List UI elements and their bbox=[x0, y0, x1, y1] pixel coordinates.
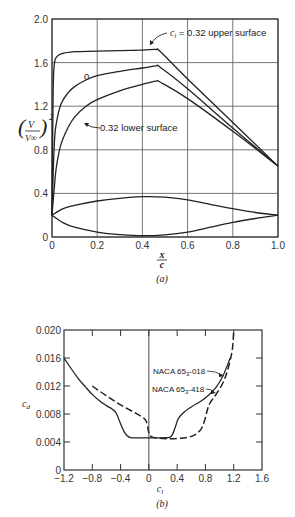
annotation-zero: 0 bbox=[84, 71, 89, 82]
series-line-4 bbox=[52, 215, 278, 236]
y-tick-label: 0.004 bbox=[36, 437, 61, 448]
annotation-018-text: NACA 653-018 bbox=[153, 367, 206, 377]
x-tick-label: 1.2 bbox=[227, 473, 241, 484]
x-tick-label: 0 bbox=[49, 240, 55, 251]
y-tick-label: 2.0 bbox=[34, 14, 48, 25]
chart-b-frame bbox=[64, 330, 262, 470]
x-label-denominator: c bbox=[160, 259, 165, 270]
chart-b-y-label: cd bbox=[22, 398, 30, 411]
chart-b-x-ticks: −1.2−0.8−0.400.40.81.21.6 bbox=[54, 330, 269, 484]
x-tick-label: 0 bbox=[146, 473, 152, 484]
chart-b-x-label: cl bbox=[157, 483, 163, 496]
y-tick-label: 0.016 bbox=[36, 353, 61, 364]
annotation-upper-surface: cl = 0.32 upper surface bbox=[150, 27, 266, 45]
x-tick-label: 1.6 bbox=[255, 473, 269, 484]
chart-a: 00.40.81.21.62.0 00.20.40.60.81.0 ( V V∞… bbox=[18, 14, 285, 285]
x-tick-label: 0.6 bbox=[181, 240, 195, 251]
annotation-upper-text: cl = 0.32 upper surface bbox=[170, 27, 266, 40]
legend-annotation-418: NACA 653-418 bbox=[152, 385, 216, 395]
y-tick-label: 0.008 bbox=[36, 409, 61, 420]
y-label-exponent: 2 bbox=[49, 112, 54, 122]
annotation-lower-surface: 0.32 lower surface bbox=[84, 122, 178, 133]
x-tick-label: 0.2 bbox=[90, 240, 104, 251]
chart-a-y-label: ( V V∞ ) 2 bbox=[18, 112, 54, 143]
x-tick-label: −1.2 bbox=[54, 473, 74, 484]
series-line-naca-018 bbox=[64, 358, 230, 438]
series-line-3 bbox=[52, 197, 278, 216]
x-tick-label: 0.8 bbox=[198, 473, 212, 484]
chart-b: 00.0040.0080.0120.0160.020 −1.2−0.8−0.40… bbox=[22, 325, 269, 510]
y-tick-label: 0.4 bbox=[34, 188, 48, 199]
annotation-lower-text: 0.32 lower surface bbox=[100, 122, 178, 133]
figure: 00.40.81.21.62.0 00.20.40.60.81.0 ( V V∞… bbox=[0, 0, 295, 517]
chart-a-x-label: x c bbox=[157, 249, 167, 270]
x-tick-label: 1.0 bbox=[271, 240, 285, 251]
chart-a-x-ticks: 00.20.40.60.81.0 bbox=[49, 240, 285, 251]
paren-right: ) bbox=[38, 114, 47, 139]
y-label-denominator: V∞ bbox=[25, 133, 37, 143]
legend-annotation-018: NACA 653-018 bbox=[153, 367, 224, 377]
x-tick-label: 0.4 bbox=[135, 240, 149, 251]
arrowhead-icon bbox=[84, 123, 89, 127]
x-tick-label: −0.4 bbox=[111, 473, 131, 484]
series-line-2 bbox=[52, 80, 278, 215]
x-tick-label: 0.4 bbox=[170, 473, 184, 484]
y-tick-label: 0.012 bbox=[36, 381, 61, 392]
y-tick-label: 0 bbox=[42, 232, 48, 243]
y-tick-label: 1.2 bbox=[34, 101, 48, 112]
panel-a-label: (a) bbox=[156, 273, 168, 285]
panel-b-label: (b) bbox=[156, 498, 168, 510]
x-tick-label: −0.8 bbox=[82, 473, 102, 484]
y-label-numerator: V bbox=[28, 119, 36, 130]
y-tick-label: 1.6 bbox=[34, 58, 48, 69]
y-tick-label: 0.020 bbox=[36, 325, 61, 336]
annotation-418-text: NACA 653-418 bbox=[152, 385, 205, 395]
x-tick-label: 0.8 bbox=[226, 240, 240, 251]
y-tick-label: 0.8 bbox=[34, 145, 48, 156]
